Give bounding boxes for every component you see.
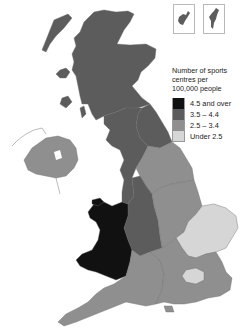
island-arran	[80, 106, 86, 118]
legend-label: 2.5 – 3.4	[190, 121, 219, 130]
legend-item: Under 2.5	[172, 131, 248, 142]
legend-label: 4.5 and over	[190, 99, 231, 108]
shetland-island-icon	[204, 5, 224, 33]
region-northern-ireland[interactable]	[24, 136, 78, 178]
legend-swatch	[172, 131, 185, 142]
region-scotland-islands	[42, 14, 72, 52]
legend-swatch	[172, 98, 185, 109]
legend-item: 4.5 and over	[172, 98, 248, 109]
uk-choropleth-map	[0, 0, 248, 336]
legend-item: 3.5 – 4.4	[172, 109, 248, 120]
island-mull	[56, 68, 70, 78]
inset-shetland	[203, 4, 225, 34]
legend-swatch	[172, 120, 185, 131]
legend-swatch	[172, 109, 185, 120]
inset-orkney	[173, 4, 195, 34]
legend-label: 3.5 – 4.4	[190, 110, 219, 119]
legend-label: Under 2.5	[190, 132, 222, 141]
legend-title-line: Number of sports	[172, 66, 248, 75]
legend-title: Number of sports centres per 100,000 peo…	[172, 66, 248, 93]
legend-title-line: 100,000 people	[172, 84, 248, 93]
map-legend: Number of sports centres per 100,000 peo…	[172, 66, 248, 142]
island-isle-of-wight	[164, 306, 174, 312]
island-islay	[60, 96, 72, 108]
region-scotland[interactable]	[72, 10, 156, 120]
legend-item: 2.5 – 3.4	[172, 120, 248, 131]
orkney-island-icon	[174, 5, 194, 33]
legend-title-line: centres per	[172, 75, 248, 84]
region-wales[interactable]	[76, 202, 132, 280]
